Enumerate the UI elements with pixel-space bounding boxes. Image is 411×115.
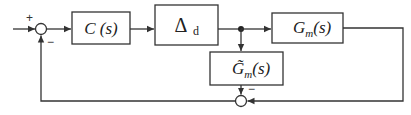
sum-input-plus-sign: + — [26, 11, 33, 25]
plant-model-block: Gm(s) — [272, 13, 343, 43]
delay-label: Δ — [175, 14, 188, 36]
delay-block: Δ d — [155, 5, 218, 45]
controller-block: C (s) — [72, 12, 130, 44]
block-diagram: + − C (s) Δ d Gm(s) G̃m(s) − — [0, 0, 411, 115]
model-approx-label: G̃m(s) — [232, 59, 271, 80]
controller-label: C (s) — [84, 19, 118, 38]
sum-input-minus-sign: − — [47, 35, 54, 49]
plant-model-label: Gm(s) — [293, 18, 332, 39]
summing-junction-feedback — [236, 96, 247, 107]
sum-feedback-minus-sign: − — [248, 82, 255, 96]
delay-label-subscript: d — [193, 24, 199, 38]
summing-junction-input — [36, 24, 47, 35]
model-approx-block: G̃m(s) — [210, 52, 283, 85]
